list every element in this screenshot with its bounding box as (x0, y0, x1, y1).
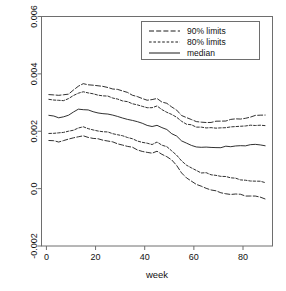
x-tick-label: 80 (238, 252, 248, 262)
y-tick-label: 0.002 (29, 120, 39, 143)
x-axis-ticks (46, 246, 243, 250)
legend-label: 80% limits (187, 37, 226, 47)
x-tick-label: 20 (91, 252, 101, 262)
legend-label: 90% limits (187, 26, 226, 36)
line-chart: -0.0020.00.0020.0040.006 020406080 week … (0, 0, 286, 291)
series-80-upper-limit (49, 92, 265, 128)
y-tick-label: -0.002 (29, 233, 39, 259)
y-tick-label: 0.0 (29, 182, 39, 195)
chart-legend: 90% limits80% limitsmedian (142, 22, 260, 60)
series-80-lower-limit (49, 127, 265, 183)
x-axis-tick-labels: 020406080 (44, 252, 248, 262)
series-90-upper-limit (49, 84, 265, 123)
chart-container: -0.0020.00.0020.0040.006 020406080 week … (0, 0, 286, 291)
y-tick-label: 0.006 (29, 5, 39, 28)
x-tick-label: 0 (44, 252, 49, 262)
x-tick-label: 40 (140, 252, 150, 262)
y-tick-label: 0.004 (29, 63, 39, 86)
data-series-group (49, 84, 265, 199)
x-tick-label: 60 (189, 252, 199, 262)
x-axis-title: week (145, 269, 168, 280)
series-90-lower-limit (49, 136, 265, 199)
legend-label: median (187, 48, 215, 58)
y-axis-tick-labels: -0.0020.00.0020.0040.006 (29, 5, 39, 259)
